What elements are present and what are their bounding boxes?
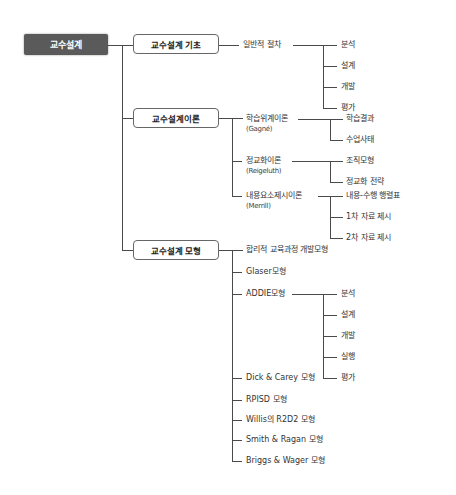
leaf-step: 평가 xyxy=(341,103,355,113)
model-item: Glaser모형 xyxy=(246,267,286,277)
node-general-procedure: 일반적 절차 xyxy=(243,40,281,50)
connector xyxy=(232,118,233,197)
connector xyxy=(232,440,242,441)
connector xyxy=(330,238,343,239)
model-item-addie: ADDIE모형 xyxy=(246,289,285,299)
node-reigeluth-theory: 정교화이론 (Reigeluth) xyxy=(246,156,281,176)
theory-author: (Merrill) xyxy=(246,201,302,211)
node-design-basics: 교수설계 기초 xyxy=(133,34,219,54)
leaf-events-of-instruction: 수업사태 xyxy=(346,135,374,145)
model-item: Willis의 R2D2 모형 xyxy=(246,415,315,425)
connector xyxy=(232,400,242,401)
connector xyxy=(330,140,343,141)
connector xyxy=(219,250,243,251)
connector xyxy=(330,217,343,218)
leaf-organization-model: 조직모형 xyxy=(346,156,374,166)
model-item: Smith & Ragan 모형 xyxy=(246,435,323,445)
leaf-secondary-presentation: 2차 자료 제시 xyxy=(346,233,391,243)
connector xyxy=(232,250,233,462)
leaf-step: 설계 xyxy=(341,61,355,71)
theory-author: (Gagné) xyxy=(246,124,288,134)
connector xyxy=(323,378,337,379)
node-gagne-theory: 학습위계이론 (Gagné) xyxy=(246,114,288,134)
addie-step: 개발 xyxy=(341,331,355,341)
connector xyxy=(323,66,337,67)
node-merrill-theory: 내용요소제시이론 (Merrill) xyxy=(246,191,302,211)
connector xyxy=(232,196,242,197)
connector xyxy=(323,45,324,109)
leaf-step: 개발 xyxy=(341,82,355,92)
addie-step: 평가 xyxy=(341,373,355,383)
connector xyxy=(330,119,331,141)
leaf-step: 분석 xyxy=(341,40,355,50)
node-design-theory: 교수설계이론 xyxy=(133,108,219,128)
connector xyxy=(323,336,337,337)
connector xyxy=(232,294,242,295)
connector xyxy=(232,272,242,273)
addie-step: 설계 xyxy=(341,310,355,320)
connector xyxy=(330,161,331,183)
connector xyxy=(232,378,242,379)
leaf-content-performance-matrix: 내용-수행 행렬표 xyxy=(346,191,400,201)
model-item: Dick & Carey 모형 xyxy=(246,373,315,383)
connector xyxy=(330,182,343,183)
theory-name: 학습위계이론 xyxy=(246,114,288,123)
addie-step: 분석 xyxy=(341,289,355,299)
node-design-models: 교수설계 모형 xyxy=(133,240,219,260)
connector xyxy=(292,161,343,162)
connector xyxy=(298,119,343,120)
connector xyxy=(232,420,242,421)
model-item: Briggs & Wager 모형 xyxy=(246,456,325,466)
connector xyxy=(293,45,337,46)
connector xyxy=(323,87,337,88)
connector xyxy=(219,45,239,46)
model-item: 합리적 교육과정 개발모형 xyxy=(246,245,328,255)
connector xyxy=(323,108,337,109)
connector xyxy=(323,357,337,358)
leaf-learning-outcomes: 학습결과 xyxy=(346,114,374,124)
connector xyxy=(292,294,337,295)
leaf-elaboration-strategy: 정교화 전략 xyxy=(346,177,384,187)
connector xyxy=(108,45,133,46)
theory-name: 내용요소제시이론 xyxy=(246,191,302,200)
addie-step: 실행 xyxy=(341,352,355,362)
connector xyxy=(122,118,133,119)
connector xyxy=(122,45,123,251)
connector xyxy=(323,315,337,316)
connector xyxy=(232,461,242,462)
connector xyxy=(122,250,133,251)
leaf-primary-presentation: 1차 자료 제시 xyxy=(346,212,391,222)
connector xyxy=(232,161,242,162)
root-node-instructional-design: 교수설계 xyxy=(24,34,108,55)
theory-name: 정교화이론 xyxy=(246,156,281,165)
model-item: RPISD 모형 xyxy=(246,395,287,405)
theory-author: (Reigeluth) xyxy=(246,166,281,176)
connector xyxy=(219,118,243,119)
